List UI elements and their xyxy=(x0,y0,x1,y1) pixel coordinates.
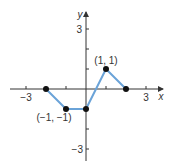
x-tick-label-3: 3 xyxy=(143,92,149,103)
x-axis-label: x xyxy=(158,91,165,102)
x-tick-label-neg3: −3 xyxy=(20,92,32,103)
annotation-1-1: (1, 1) xyxy=(94,55,117,66)
point-0-neg1 xyxy=(83,106,89,112)
y-tick-label-3: 3 xyxy=(76,24,82,35)
annotation-neg1-neg1: (−1, −1) xyxy=(36,112,71,123)
y-tick-label-neg3: −3 xyxy=(72,144,84,155)
point-1-1 xyxy=(103,66,109,72)
function-graph: −3 3 3 −3 x y (−1, −1) (1, 1) xyxy=(0,0,176,167)
point-neg2-0 xyxy=(43,86,49,92)
point-2-0 xyxy=(123,86,129,92)
y-axis-label: y xyxy=(77,9,84,20)
